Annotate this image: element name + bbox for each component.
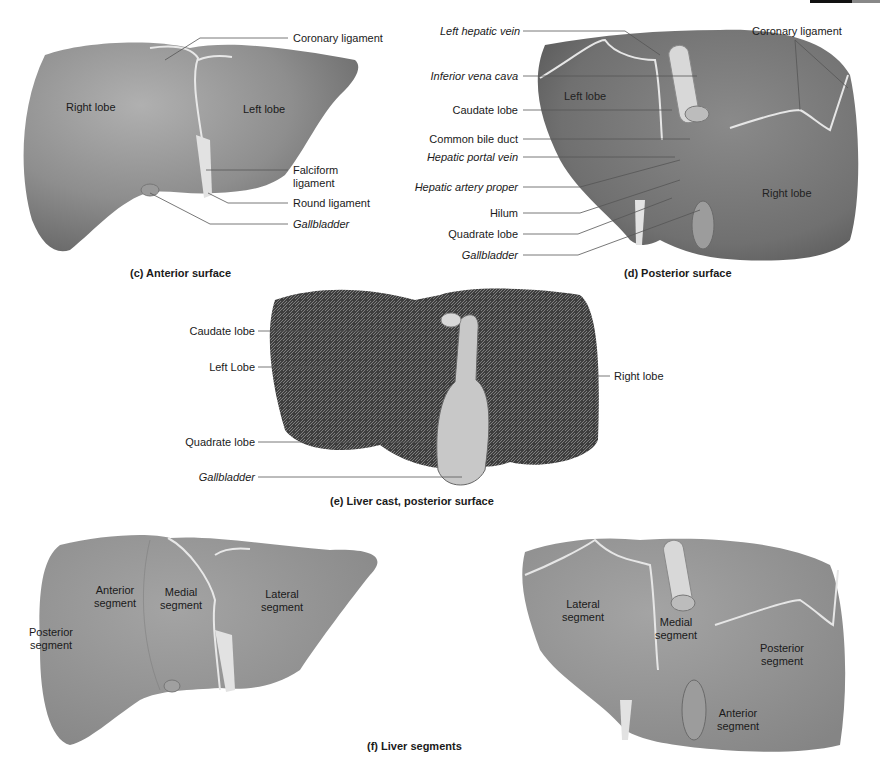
liver-cast-photo	[270, 289, 599, 485]
liver-posterior-drawing	[538, 30, 858, 261]
callout-coronary-ligament: Coronary ligament	[293, 32, 383, 45]
caption-anterior-surface: (c) Anterior surface	[130, 267, 231, 279]
callout-left-lobe-e: Left Lobe	[170, 361, 255, 374]
seg-anterior-lateral-segment: Lateral segment	[257, 588, 307, 614]
seg-anterior-anterior-segment: Anterior segment	[90, 584, 140, 610]
callout-hepatic-artery-proper: Hepatic artery proper	[400, 181, 518, 194]
caption-liver-segments: (f) Liver segments	[367, 740, 462, 752]
callout-quadrate-lobe-e: Quadrate lobe	[170, 436, 255, 449]
seg-anterior-posterior-segment: Posterior segment	[26, 626, 76, 652]
callout-falciform-ligament: Falciform ligament	[293, 164, 353, 190]
callout-round-ligament: Round ligament	[293, 197, 370, 210]
seg-posterior-posterior-segment: Posterior segment	[757, 642, 807, 668]
anterior-right-lobe-label: Right lobe	[66, 101, 116, 114]
anterior-left-lobe-label: Left lobe	[243, 103, 285, 116]
callout-gallbladder-c: Gallbladder	[293, 218, 349, 231]
callout-caudate-lobe-e: Caudate lobe	[170, 325, 255, 338]
seg-posterior-anterior-segment: Anterior segment	[713, 707, 763, 733]
callout-common-bile-duct: Common bile duct	[410, 133, 518, 146]
posterior-left-lobe-label: Left lobe	[564, 90, 606, 103]
caption-liver-cast: (e) Liver cast, posterior surface	[330, 495, 494, 507]
seg-posterior-medial-segment: Medial segment	[651, 616, 701, 642]
liver-segments-anterior-drawing	[39, 535, 377, 745]
caption-posterior-surface: (d) Posterior surface	[624, 267, 732, 279]
callout-coronary-ligament-d: Coronary ligament	[752, 25, 842, 38]
callout-right-lobe-e: Right lobe	[614, 370, 664, 383]
callout-hilum: Hilum	[420, 207, 518, 220]
callout-inferior-vena-cava: Inferior vena cava	[420, 70, 518, 83]
callout-gallbladder-d: Gallbladder	[420, 249, 518, 262]
callout-left-hepatic-vein: Left hepatic vein	[440, 25, 518, 38]
posterior-right-lobe-label: Right lobe	[762, 187, 812, 200]
callout-hepatic-portal-vein: Hepatic portal vein	[410, 151, 518, 164]
seg-posterior-lateral-segment: Lateral segment	[558, 598, 608, 624]
seg-anterior-medial-segment: Medial segment	[156, 586, 206, 612]
callout-caudate-lobe-d: Caudate lobe	[420, 104, 518, 117]
callout-quadrate-lobe-d: Quadrate lobe	[420, 228, 518, 241]
callout-gallbladder-e: Gallbladder	[170, 471, 255, 484]
